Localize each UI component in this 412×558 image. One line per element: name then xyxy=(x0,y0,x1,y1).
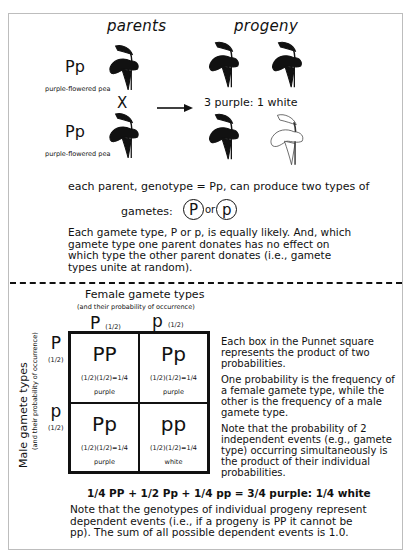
cell-genotype: PP xyxy=(92,343,116,365)
parent-1-genotype: Pp xyxy=(65,57,85,76)
final-note: Note that the genotypes of individual pr… xyxy=(70,504,370,539)
column-prob: (1/2) xyxy=(168,321,184,329)
cell-genotype: Pp xyxy=(92,413,117,435)
punnett-cell-Pp-top: Pp (1/2)(1/2)=1/4 purple xyxy=(139,333,208,403)
row-prob: (1/2) xyxy=(48,424,64,432)
side-notes: Each box in the Punnet square represents… xyxy=(221,336,399,483)
gametes-intro: each parent, genotype = Pp, can produce … xyxy=(68,180,369,193)
cell-phenotype: purple xyxy=(94,388,115,396)
equal-likelihood-text: Each gamete type, P or p, is equally lik… xyxy=(68,227,358,273)
cell-phenotype: purple xyxy=(94,458,115,466)
row-allele: p xyxy=(48,402,64,420)
female-gamete-subtitle: (and their probability of occurrence) xyxy=(77,303,195,311)
punnett-square: PP (1/2)(1/2)=1/4 purple Pp (1/2)(1/2)=1… xyxy=(68,331,210,474)
progeny-heading: progeny xyxy=(234,17,298,35)
gamete-circle-P: P xyxy=(183,199,204,220)
progeny-plant-1-icon xyxy=(207,40,243,90)
row-header-2: p (1/2) xyxy=(48,402,64,432)
summary-equation: 1/4 PP + 1/2 Pp + 1/4 pp = 3/4 purple: 1… xyxy=(87,487,371,499)
punnett-cell-PP: PP (1/2)(1/2)=1/4 purple xyxy=(70,333,139,403)
progeny-plant-3-icon xyxy=(207,112,243,162)
cell-genotype: pp xyxy=(161,413,186,435)
cell-phenotype: white xyxy=(165,458,183,466)
gametes-label: gametes: xyxy=(121,205,173,218)
column-header-1: P (1/2) xyxy=(90,313,121,333)
parent-2-plant-icon xyxy=(107,112,143,160)
gamete-options: Porp xyxy=(183,199,237,220)
right-arrow-icon xyxy=(157,98,193,117)
side-note-3: Note that the probability of 2 independe… xyxy=(221,423,399,478)
female-gamete-title: Female gamete types xyxy=(85,288,204,301)
row-prob: (1/2) xyxy=(48,356,64,364)
row-header-1: P (1/2) xyxy=(48,334,64,364)
punnett-cell-pp: pp (1/2)(1/2)=1/4 white xyxy=(139,403,208,473)
cell-probability: (1/2)(1/2)=1/4 xyxy=(81,374,128,382)
column-allele: p xyxy=(152,311,163,331)
column-header-2: p (1/2) xyxy=(152,311,183,331)
male-gamete-subtitle: (and their probability of occurrence) xyxy=(31,332,39,450)
cell-probability: (1/2)(1/2)=1/4 xyxy=(150,374,197,382)
progeny-plant-white-icon xyxy=(268,112,308,168)
cell-probability: (1/2)(1/2)=1/4 xyxy=(150,444,197,452)
male-gamete-title: Male gamete types xyxy=(17,362,30,468)
parent-1-label: purple-flowered pea xyxy=(45,85,110,93)
gamete-or: or xyxy=(205,204,215,215)
parent-2-genotype: Pp xyxy=(65,122,85,141)
parents-heading: parents xyxy=(107,17,166,35)
punnett-cell-Pp-bottom: Pp (1/2)(1/2)=1/4 purple xyxy=(70,403,139,473)
row-allele: P xyxy=(48,334,64,352)
progeny-ratio: 3 purple: 1 white xyxy=(204,96,298,109)
cell-phenotype: purple xyxy=(163,388,184,396)
parent-1-plant-icon xyxy=(107,44,143,92)
side-note-1: Each box in the Punnet square represents… xyxy=(221,336,399,369)
parent-2-label: purple-flowered pea xyxy=(45,150,110,158)
gamete-circle-p: p xyxy=(216,199,237,220)
cell-probability: (1/2)(1/2)=1/4 xyxy=(81,444,128,452)
cell-genotype: Pp xyxy=(161,343,186,365)
cross-symbol: X xyxy=(117,94,127,112)
column-allele: P xyxy=(90,313,100,333)
section-divider xyxy=(10,282,402,284)
progeny-plant-2-icon xyxy=(270,40,306,90)
side-note-2: One probability is the frequency of a fe… xyxy=(221,374,399,418)
column-prob: (1/2) xyxy=(105,323,121,331)
